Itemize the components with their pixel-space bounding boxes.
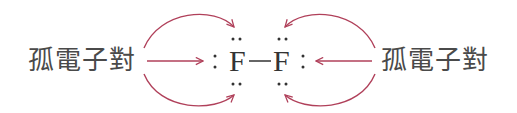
arrow-right-bottom-icon bbox=[285, 74, 375, 106]
lewis-structure-diagram: 孤電子對 孤電子對 F F bbox=[0, 0, 517, 113]
arrow-left-top-icon bbox=[144, 14, 234, 48]
left-arrows bbox=[144, 14, 234, 106]
arrow-right-top-icon bbox=[285, 14, 375, 48]
arrow-left-bottom-icon bbox=[144, 74, 234, 106]
right-arrows bbox=[285, 14, 375, 106]
right-fluorine-lone-pairs bbox=[278, 38, 305, 86]
arrows-and-electrons bbox=[0, 0, 517, 113]
left-fluorine-lone-pairs bbox=[214, 38, 242, 86]
